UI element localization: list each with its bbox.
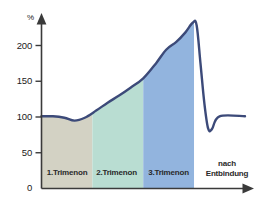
band-label-postpartum: nach Entbindung — [196, 159, 258, 178]
band-rect-trimenon-1 — [42, 0, 93, 189]
y-axis-arrow-icon — [37, 13, 47, 25]
band-label-postpartum-line1: nach — [218, 159, 236, 168]
band-rect-trimenon-2 — [92, 0, 143, 189]
x-axis-arrow-icon — [243, 184, 255, 194]
band-label-trimenon-1: 1.Trimenon — [42, 168, 92, 177]
band-rect-trimenon-3 — [143, 0, 194, 189]
y-axis-tick-label-150: 150 — [0, 75, 32, 86]
band-label-trimenon-2: 2.Trimenon — [92, 168, 141, 177]
y-axis-unit-label: % — [27, 13, 34, 22]
y-axis-tick-label-200: 200 — [0, 40, 32, 51]
y-axis-tick-label-50: 50 — [0, 147, 32, 158]
y-axis-ticks — [36, 46, 42, 153]
y-axis-tick-label-100: 100 — [0, 111, 32, 122]
band-label-trimenon-3: 3.Trimenon — [141, 168, 196, 177]
chart-container: % 200 150 100 50 0 1.Trimenon 2.Trimenon… — [0, 0, 262, 205]
band-label-postpartum-line2: Entbindung — [206, 169, 248, 178]
y-axis-tick-label-0: 0 — [0, 182, 32, 193]
